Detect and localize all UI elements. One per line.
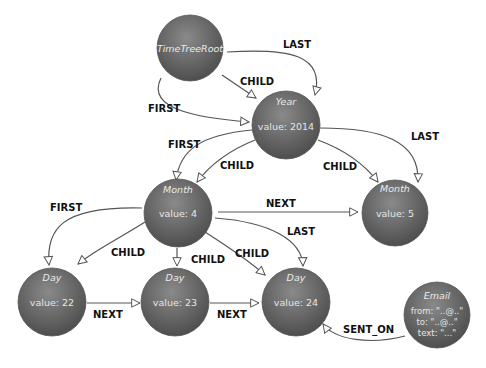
node-type: Month bbox=[163, 184, 193, 195]
node-month-5[interactable]: Month value: 5 bbox=[362, 180, 428, 246]
edge-label: CHILD bbox=[111, 247, 145, 258]
edge-label: FIRST bbox=[148, 103, 180, 114]
node-value: from: "..@.." bbox=[411, 306, 464, 316]
edge-label: NEXT bbox=[93, 309, 123, 320]
edge-label: LAST bbox=[283, 39, 311, 50]
node-value: to: "..@.." bbox=[416, 317, 457, 327]
node-time-tree-root[interactable]: TimeTreeRoot bbox=[157, 15, 224, 81]
node-value: value: 24 bbox=[274, 297, 318, 308]
edge-label: SENT_ON bbox=[343, 324, 394, 336]
edge-label: NEXT bbox=[266, 198, 296, 209]
edge-label: LAST bbox=[411, 131, 439, 142]
edge-label: CHILD bbox=[220, 160, 254, 171]
edge-label: LAST bbox=[287, 226, 315, 237]
node-type: Month bbox=[380, 183, 410, 194]
edge-year-month4-first bbox=[176, 130, 252, 180]
edge-label: CHILD bbox=[240, 76, 274, 87]
node-type: Day bbox=[287, 272, 306, 283]
node-email[interactable]: Email from: "..@.." to: "..@.." text: ".… bbox=[404, 282, 470, 348]
node-year[interactable]: Year value: 2014 bbox=[252, 91, 320, 159]
node-value: value: 2014 bbox=[258, 121, 314, 132]
node-type: Year bbox=[276, 96, 297, 107]
time-tree-diagram: LAST CHILD FIRST FIRST CHILD CHILD LAST … bbox=[0, 0, 486, 368]
node-type: Day bbox=[43, 272, 62, 283]
node-day-22[interactable]: Day value: 22 bbox=[18, 268, 86, 336]
node-month-4[interactable]: Month value: 4 bbox=[144, 179, 212, 247]
node-type: Day bbox=[166, 272, 185, 283]
node-value: value: 22 bbox=[30, 297, 74, 308]
node-day-24[interactable]: Day value: 24 bbox=[262, 268, 330, 336]
edge-label: CHILD bbox=[323, 161, 357, 172]
node-value: text: "..." bbox=[418, 328, 456, 338]
node-day-23[interactable]: Day value: 23 bbox=[141, 268, 209, 336]
node-value: value: 5 bbox=[376, 208, 414, 219]
node-type: Email bbox=[424, 290, 451, 301]
edge-label: CHILD bbox=[191, 254, 225, 265]
node-value: value: 4 bbox=[159, 208, 197, 219]
edge-label: FIRST bbox=[50, 202, 82, 213]
node-type: TimeTreeRoot bbox=[157, 43, 224, 54]
edge-year-month5-last bbox=[320, 128, 418, 182]
nodes: TimeTreeRoot Year value: 2014 Month valu… bbox=[18, 15, 470, 348]
node-value: value: 23 bbox=[153, 297, 197, 308]
edge-label: CHILD bbox=[235, 248, 269, 259]
edge-root-year-last bbox=[227, 51, 317, 95]
edge-label: FIRST bbox=[168, 139, 200, 150]
edge-label: NEXT bbox=[217, 309, 247, 320]
